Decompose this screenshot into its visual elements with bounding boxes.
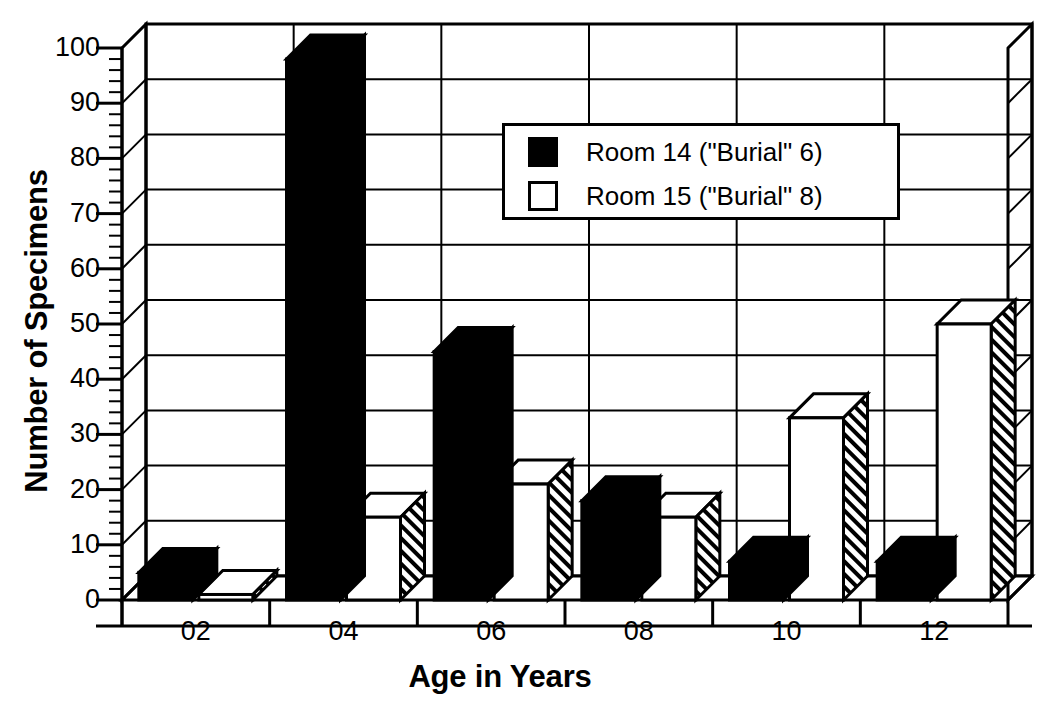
gridline-left-wall [122, 190, 146, 214]
x-tick-label-12: 12 [884, 616, 984, 646]
bar-room-14-06 [434, 328, 512, 600]
gridline-left-wall [122, 410, 146, 434]
bar-room-14-08 [582, 477, 660, 600]
plot-area [0, 0, 1062, 723]
legend-swatch-icon-room-14 [528, 137, 558, 167]
gridline-left-wall [122, 134, 146, 158]
legend-label-room-14: Room 14 ("Burial" 6) [586, 139, 823, 165]
x-axis-title: Age in Years [180, 659, 820, 695]
legend-swatch-icon-room-15 [528, 181, 558, 211]
gridline-left-wall [122, 300, 146, 324]
x-tick-label-06: 06 [441, 616, 541, 646]
legend-entry-room-15: Room 15 ("Burial" 8) [505, 172, 897, 220]
gridline-left-wall [122, 245, 146, 269]
legend-entry-room-14: Room 14 ("Burial" 6) [505, 128, 897, 176]
x-tick-label-08: 08 [589, 616, 689, 646]
bar-chart: Number of Specimens 01020304050607080901… [0, 0, 1062, 723]
legend: Room 14 ("Burial" 6) Room 15 ("Burial" 8… [502, 123, 900, 220]
x-tick-label-10: 10 [737, 616, 837, 646]
x-tick-label-02: 02 [146, 616, 246, 646]
gridline-left-wall [122, 355, 146, 379]
bar-room-14-04 [287, 35, 365, 600]
gridline-left-wall [122, 521, 146, 545]
gridline-left-wall [122, 466, 146, 490]
legend-label-room-15: Room 15 ("Burial" 8) [586, 183, 823, 209]
x-tick-label-04: 04 [294, 616, 394, 646]
gridline-left-wall [122, 79, 146, 103]
